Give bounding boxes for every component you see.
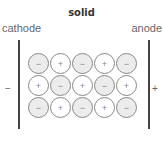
cation: +: [50, 97, 71, 118]
anode-electrode: [148, 40, 150, 129]
anion: −: [72, 97, 93, 118]
cation: +: [28, 75, 49, 96]
diagram-title: solid: [0, 6, 163, 19]
anion: −: [28, 53, 49, 74]
cathode-label: cathode: [2, 22, 41, 34]
anion: −: [116, 97, 137, 118]
cation: +: [94, 53, 115, 74]
cation: +: [72, 75, 93, 96]
anode-label: anode: [131, 22, 162, 34]
anode-sign: +: [152, 83, 158, 94]
anion: −: [94, 75, 115, 96]
cathode-sign: −: [5, 83, 11, 94]
cation: +: [116, 75, 137, 96]
cathode-electrode: [18, 40, 20, 129]
cation: +: [50, 53, 71, 74]
cation: +: [94, 97, 115, 118]
anion: −: [72, 53, 93, 74]
ion-lattice: −+−+−+−+−+−+−+−: [28, 53, 138, 119]
anion: −: [50, 75, 71, 96]
anion: −: [116, 53, 137, 74]
anion: −: [28, 97, 49, 118]
